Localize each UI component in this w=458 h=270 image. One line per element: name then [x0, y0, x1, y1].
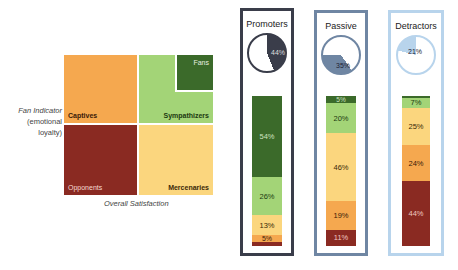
passive-pie: [321, 35, 361, 75]
promoters-bar: 54% 26% 13% 5%: [252, 96, 282, 246]
promoters-pie-label: 44%: [271, 49, 285, 56]
passive-pie-label: 35%: [336, 62, 350, 69]
seg-label: 25%: [408, 122, 423, 131]
seg-mercenaries: 25%: [402, 108, 430, 145]
seg-label: 20%: [333, 114, 348, 123]
seg-opponents: [252, 242, 282, 246]
seg-captives: 5%: [252, 235, 282, 242]
passive-title: Passive: [317, 21, 365, 31]
seg-opponents: 44%: [402, 181, 430, 246]
seg-sympathizers: 20%: [326, 103, 356, 133]
seg-label: 44%: [408, 209, 423, 218]
seg-label: 46%: [333, 163, 348, 172]
x-axis-label: Overall Satisfaction: [104, 199, 169, 208]
seg-label: 26%: [259, 192, 274, 201]
seg-captives: 24%: [402, 145, 430, 181]
seg-mercenaries: 13%: [252, 215, 282, 234]
seg-label: 24%: [408, 159, 423, 168]
seg-label: 13%: [259, 221, 274, 230]
panel-passive: Passive 35% 5% 20% 46% 19% 11%: [314, 10, 368, 256]
detractors-pie: [396, 35, 436, 75]
y-axis-label: Fan Indicator (emotional loyalty): [8, 105, 62, 138]
seg-sympathizers: 7%: [402, 98, 430, 108]
seg-opponents: 11%: [326, 230, 356, 246]
seg-sympathizers: 26%: [252, 177, 282, 216]
detractors-bar: 7% 25% 24% 44%: [402, 96, 430, 246]
seg-captives: 19%: [326, 201, 356, 229]
seg-fans: 54%: [252, 96, 282, 177]
seg-label: 5%: [262, 235, 272, 242]
y-axis-line-2: (emotional: [8, 116, 62, 127]
sympathizers-label: Sympathizers: [163, 112, 209, 119]
fans-label: Fans: [193, 59, 209, 66]
seg-fans: 5%: [326, 96, 356, 103]
opponents-label: Opponents: [68, 184, 102, 191]
detractors-title: Detractors: [391, 21, 441, 31]
quadrant-fans: Fans: [175, 55, 213, 92]
seg-mercenaries: 46%: [326, 133, 356, 201]
seg-label: 11%: [334, 233, 348, 242]
mercenaries-label: Mercenaries: [168, 184, 209, 191]
y-axis-line-3: loyalty): [8, 127, 62, 138]
y-axis-line-1: Fan Indicator: [8, 105, 62, 116]
quadrant-captives: Captives: [64, 55, 137, 123]
panel-detractors: Detractors 21% 7% 25% 24% 44%: [388, 10, 444, 256]
seg-label: 19%: [333, 211, 348, 220]
passive-bar: 5% 20% 46% 19% 11%: [326, 96, 356, 246]
seg-label: 7%: [411, 98, 422, 107]
panel-promoters: Promoters 44% 54% 26% 13% 5%: [240, 8, 294, 256]
captives-label: Captives: [68, 112, 97, 119]
quadrant-opponents: Opponents: [64, 125, 137, 195]
quadrant-mercenaries: Mercenaries: [139, 125, 213, 195]
seg-label: 5%: [336, 96, 345, 103]
seg-label: 54%: [259, 132, 274, 141]
detractors-pie-label: 21%: [408, 48, 422, 55]
promoters-title: Promoters: [243, 19, 291, 29]
